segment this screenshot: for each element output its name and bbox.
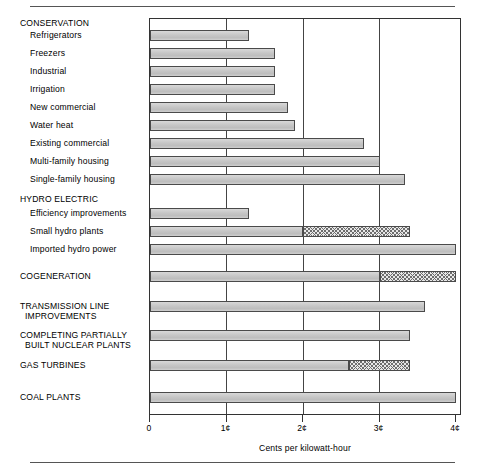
bar-segment-solid [150,156,380,167]
bar-row [150,120,456,131]
bar-segment-solid [150,66,275,77]
bar-row [150,226,456,237]
x-axis-title: Cents per kilowatt-hour [149,443,461,453]
bar-segment-solid [150,301,425,312]
category-label-existing-commercial: Existing commercial [30,138,109,148]
bar-row [150,30,456,41]
group-heading-hydro-electric: HYDRO ELECTRIC [20,194,98,204]
bar-row [150,330,456,341]
bar-segment-solid [150,360,349,371]
category-label-gas-turbines: GAS TURBINES [20,360,86,370]
bar-segment-solid [150,244,456,255]
category-label-water-heat: Water heat [30,120,73,130]
bar-row [150,156,456,167]
category-label-completing-partially-built-nuclear-plants: COMPLETING PARTIALLY BUILT NUCLEAR PLANT… [20,330,131,350]
x-tick-3 [379,415,380,422]
bar-row [150,244,456,255]
bar-row [150,301,456,312]
bar-segment-solid [150,208,249,219]
x-tick-label-1: 1¢ [214,423,238,433]
bar-segment-solid [150,174,405,185]
bar-segment-hatched [349,360,410,371]
bar-segment-hatched [303,226,410,237]
bar-segment-solid [150,271,380,282]
bar-row [150,66,456,77]
bar-row [150,360,456,371]
x-tick-0 [149,415,150,422]
category-label-single-family-housing: Single-family housing [30,174,115,184]
group-heading-conservation: CONSERVATION [20,18,89,28]
x-tick-label-0: 0 [137,423,161,433]
bar-segment-solid [150,120,295,131]
bar-segment-solid [150,138,364,149]
bar-row [150,174,456,185]
category-label-multi-family-housing: Multi-family housing [30,156,109,166]
category-label-freezers: Freezers [30,48,65,58]
bar-row [150,271,456,282]
bar-segment-solid [150,226,303,237]
x-tick-label-4: 4¢ [443,423,467,433]
x-tick-label-3: 3¢ [367,423,391,433]
category-label-irrigation: Irrigation [30,84,65,94]
category-label-new-commercial: New commercial [30,102,96,112]
bottom-divider-rule [30,462,455,463]
category-label-refrigerators: Refrigerators [30,30,82,40]
bar-segment-solid [150,48,275,59]
chart-plot-area [149,18,461,415]
x-tick-4 [455,415,456,422]
category-label-transmission-line-improvements: TRANSMISSION LINE IMPROVEMENTS [20,301,109,321]
bar-segment-solid [150,30,249,41]
category-label-imported-hydro-power: Imported hydro power [30,244,117,254]
category-label-industrial: Industrial [30,66,66,76]
top-divider-rule [30,6,455,7]
bar-row [150,392,456,403]
bar-segment-solid [150,84,275,95]
x-tick-2 [302,415,303,422]
bar-row [150,84,456,95]
bar-segment-solid [150,330,410,341]
bar-row [150,48,456,59]
bar-segment-hatched [380,271,457,282]
category-label-efficiency-improvements: Efficiency improvements [30,208,126,218]
bar-segment-solid [150,102,288,113]
bar-row [150,102,456,113]
category-label-cogeneration: COGENERATION [20,271,91,281]
bar-row [150,138,456,149]
bar-row [150,208,456,219]
category-label-coal-plants: COAL PLANTS [20,392,81,402]
x-tick-label-2: 2¢ [290,423,314,433]
x-tick-1 [226,415,227,422]
bar-segment-solid [150,392,456,403]
category-label-small-hydro-plants: Small hydro plants [30,226,103,236]
chart-plot-inner [150,19,460,414]
